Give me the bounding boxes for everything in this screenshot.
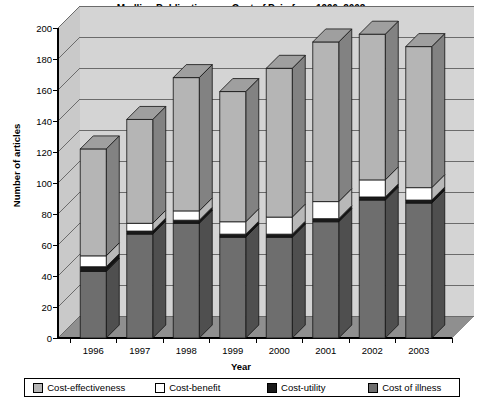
y-tick-label: 20: [18, 302, 52, 313]
legend-swatch-cost-benefit: [155, 383, 165, 393]
y-tick-label: 180: [18, 54, 52, 65]
x-tick-label: 1998: [163, 345, 209, 356]
y-tick-label: 40: [18, 271, 52, 282]
plot-area: 020406080100120140160180200 199619971998…: [0, 0, 482, 401]
y-tick-label: 80: [18, 209, 52, 220]
x-tick-label: 2001: [303, 345, 349, 356]
legend-label: Cost of illness: [382, 382, 441, 393]
legend-label: Cost-utility: [281, 382, 325, 393]
legend-item[interactable]: Cost of illness: [351, 382, 460, 393]
x-axis-title: Year: [0, 361, 482, 372]
x-tick-label: 2000: [256, 345, 302, 356]
y-tick-label: 200: [18, 23, 52, 34]
legend-label: Cost-effectiveness: [47, 382, 125, 393]
x-tick-label: 2003: [396, 345, 442, 356]
x-tick-label: 1997: [117, 345, 163, 356]
y-tick-label: 60: [18, 240, 52, 251]
chart-legend: Cost-effectiveness Cost-benefit Cost-uti…: [24, 378, 460, 397]
legend-swatch-cost-utility: [267, 383, 277, 393]
y-tick-label: 140: [18, 116, 52, 127]
chart-canvas: [0, 0, 482, 401]
y-axis-title: Number of articles: [11, 106, 22, 226]
legend-item[interactable]: Cost-effectiveness: [25, 382, 134, 393]
legend-swatch-cost-effectiveness: [33, 383, 43, 393]
y-tick-label: 0: [18, 333, 52, 344]
legend-label: Cost-benefit: [169, 382, 220, 393]
y-tick-label: 120: [18, 147, 52, 158]
y-tick-label: 100: [18, 178, 52, 189]
chart-root: Medline Publications on Cost of Pain fro…: [0, 0, 482, 401]
legend-swatch-cost-of-illness: [368, 383, 378, 393]
x-tick-label: 2002: [349, 345, 395, 356]
y-tick-label: 160: [18, 85, 52, 96]
legend-item[interactable]: Cost-benefit: [134, 382, 243, 393]
legend-item[interactable]: Cost-utility: [242, 382, 351, 393]
x-tick-label: 1996: [70, 345, 116, 356]
x-tick-label: 1999: [210, 345, 256, 356]
